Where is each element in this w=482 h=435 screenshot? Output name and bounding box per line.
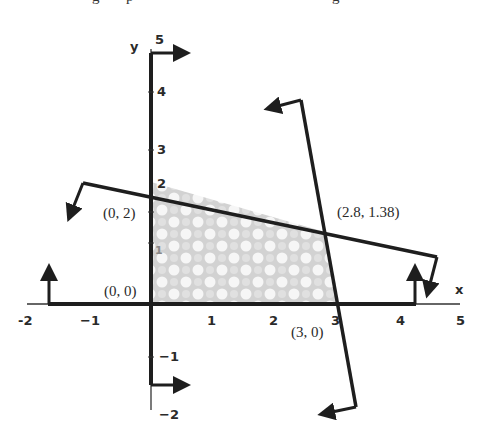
point-label-0-2: (0, 2): [103, 205, 136, 222]
arrow-left-top-icon: [278, 100, 301, 106]
arrow-down-right-icon: [430, 257, 437, 284]
x-tick-label: 5: [456, 313, 465, 328]
point-label-0-0: (0, 0): [104, 283, 137, 300]
y-tick-label: 4: [157, 84, 166, 99]
x-tick-label: 1: [207, 313, 216, 328]
x-axis-label: x: [455, 282, 464, 297]
y-axis-label: y: [130, 39, 139, 54]
point-label-2.8-1.38: (2.8, 1.38): [337, 204, 400, 221]
x-tick-label: -2: [18, 313, 32, 328]
y-tick-label: −1: [159, 349, 179, 364]
x-tick-label: 4: [396, 313, 405, 328]
y-tick-label: 1: [155, 244, 163, 257]
y-tick-label: 3: [157, 142, 166, 157]
arrow-down-left-icon: [73, 183, 83, 208]
x-tick-label: −1: [80, 313, 100, 328]
x-tick-label: 3: [331, 313, 340, 328]
feasible-region: [151, 182, 337, 304]
y-tick-label: 5: [155, 32, 164, 47]
y-tick-label: 2: [157, 176, 166, 191]
linear-programming-graph: y x -2 −1 1 2 3 4 5 −2 −1 1 2 3 4 5 (0, …: [0, 0, 482, 435]
point-label-3-0: (3, 0): [291, 324, 324, 341]
x-tick-label: 2: [269, 313, 278, 328]
y-tick-label: −2: [159, 407, 179, 422]
arrow-left-bottom-icon: [332, 407, 356, 412]
